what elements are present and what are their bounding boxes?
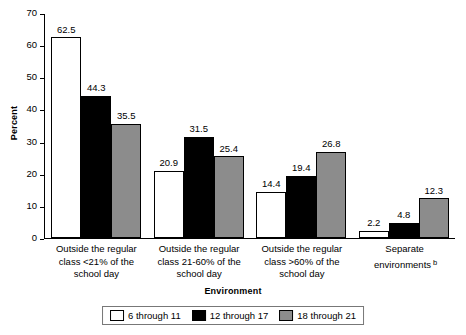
- y-axis-tick-label: 40: [15, 103, 37, 114]
- x-axis-title: Environment: [0, 286, 466, 296]
- y-axis-tick: 0: [40, 239, 44, 240]
- bar-wrapper: 4.8: [389, 14, 419, 238]
- y-axis-tick: 40: [40, 110, 44, 111]
- legend-item[interactable]: 12 through 17: [192, 310, 269, 321]
- bar-value-label: 2.2: [367, 218, 380, 228]
- bar-value-label: 26.8: [322, 139, 341, 149]
- bar-group: 2.24.812.3: [353, 14, 456, 238]
- x-axis-line: [44, 238, 455, 239]
- legend-swatch: [192, 310, 206, 321]
- bar-wrapper: 19.4: [286, 14, 316, 238]
- legend-label: 18 through 21: [297, 310, 356, 321]
- bar-value-label: 62.5: [57, 25, 76, 35]
- category-label-line: school day: [47, 268, 146, 281]
- y-axis-tick-label: 20: [15, 168, 37, 179]
- bar-value-label: 14.4: [262, 179, 281, 189]
- x-axis-category-labels: Outside the regularclass <21% of thescho…: [45, 243, 456, 281]
- bar[interactable]: [51, 37, 81, 238]
- legend: 6 through 1112 through 1718 through 21: [102, 306, 364, 325]
- bar-group-bars: 62.544.335.5: [45, 14, 148, 238]
- bar-wrapper: 44.3: [81, 14, 111, 238]
- plot-area: 706050403020100 62.544.335.520.931.525.4…: [44, 14, 455, 239]
- y-axis-tick-label: 50: [15, 71, 37, 82]
- category-label-line: class >60% of the: [253, 256, 352, 269]
- bar-group: 14.419.426.8: [250, 14, 353, 238]
- bar-group: 20.931.525.4: [148, 14, 251, 238]
- bar[interactable]: [359, 231, 389, 238]
- bar-group: 62.544.335.5: [45, 14, 148, 238]
- bar[interactable]: [419, 198, 449, 238]
- bar-value-label: 4.8: [397, 210, 410, 220]
- bar-wrapper: 26.8: [316, 14, 346, 238]
- category-label-line: class <21% of the: [47, 256, 146, 269]
- footnote-marker: b: [433, 258, 437, 267]
- bar-group-bars: 2.24.812.3: [353, 14, 456, 238]
- bar-chart: Percent 706050403020100 62.544.335.520.9…: [0, 0, 466, 335]
- bar-wrapper: 62.5: [51, 14, 81, 238]
- bar[interactable]: [111, 124, 141, 238]
- legend-item[interactable]: 6 through 11: [110, 310, 181, 321]
- y-axis-tick: 50: [40, 78, 44, 79]
- y-axis-title: Percent: [9, 83, 19, 163]
- legend-label: 12 through 17: [210, 310, 269, 321]
- legend-label: 6 through 11: [128, 310, 181, 321]
- bar-wrapper: 35.5: [111, 14, 141, 238]
- bar-wrapper: 20.9: [154, 14, 184, 238]
- y-axis-tick: 30: [40, 143, 44, 144]
- category-label-line: environmentsb: [355, 256, 454, 272]
- bar-value-label: 31.5: [190, 124, 209, 134]
- legend-swatch: [110, 310, 124, 321]
- category-label-line: school day: [253, 268, 352, 281]
- y-axis-tick-label: 10: [15, 200, 37, 211]
- x-axis-category-label: Outside the regularclass >60% of thescho…: [251, 243, 354, 281]
- x-axis-category-label: Separateenvironmentsb: [353, 243, 456, 281]
- bar-wrapper: 12.3: [419, 14, 449, 238]
- x-axis-category-label: Outside the regularclass <21% of thescho…: [45, 243, 148, 281]
- category-label-line: Separate: [355, 243, 454, 256]
- y-axis-tick: 70: [40, 14, 44, 15]
- legend-swatch: [279, 310, 293, 321]
- bar-wrapper: 2.2: [359, 14, 389, 238]
- bar[interactable]: [389, 223, 419, 238]
- y-axis-tick: 60: [40, 46, 44, 47]
- legend-item[interactable]: 18 through 21: [279, 310, 356, 321]
- bar[interactable]: [154, 171, 184, 238]
- bar-value-label: 12.3: [425, 186, 444, 196]
- bar[interactable]: [81, 96, 111, 238]
- category-label-line: Outside the regular: [150, 243, 249, 256]
- bar[interactable]: [316, 152, 346, 238]
- bar-groups: 62.544.335.520.931.525.414.419.426.82.24…: [45, 14, 455, 238]
- bar-value-label: 19.4: [292, 163, 311, 173]
- bar-value-label: 44.3: [87, 83, 106, 93]
- bar-wrapper: 14.4: [256, 14, 286, 238]
- x-axis-category-label: Outside the regularclass 21-60% of thesc…: [148, 243, 251, 281]
- bar-value-label: 35.5: [117, 111, 136, 121]
- y-axis-tick-label: 0: [15, 232, 37, 243]
- bar[interactable]: [256, 192, 286, 238]
- y-axis-tick: 10: [40, 207, 44, 208]
- category-label-line: class 21-60% of the: [150, 256, 249, 269]
- bar-group-bars: 14.419.426.8: [250, 14, 353, 238]
- category-label-line: school day: [150, 268, 249, 281]
- bar-group-bars: 20.931.525.4: [148, 14, 251, 238]
- y-axis-tick: 20: [40, 175, 44, 176]
- bar[interactable]: [214, 156, 244, 238]
- category-label-line: Outside the regular: [253, 243, 352, 256]
- bar[interactable]: [286, 176, 316, 238]
- bar-value-label: 25.4: [220, 144, 239, 154]
- bar-wrapper: 31.5: [184, 14, 214, 238]
- y-axis-tick-label: 60: [15, 39, 37, 50]
- y-axis-tick-label: 70: [15, 7, 37, 18]
- bar-value-label: 20.9: [160, 158, 179, 168]
- bar-wrapper: 25.4: [214, 14, 244, 238]
- category-label-line: Outside the regular: [47, 243, 146, 256]
- bar[interactable]: [184, 137, 214, 238]
- y-axis-tick-label: 30: [15, 136, 37, 147]
